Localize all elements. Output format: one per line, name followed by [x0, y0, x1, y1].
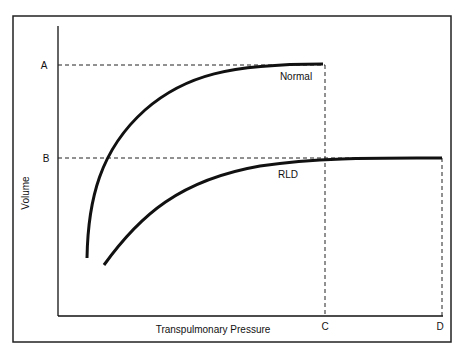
tick-a: A — [41, 60, 48, 71]
label-normal: Normal — [280, 71, 312, 82]
label-rld: RLD — [278, 169, 298, 180]
y-axis-label: Volume — [20, 176, 31, 210]
pressure-volume-diagram: A B C D Normal RLD Transpulmonary Pressu… — [0, 0, 459, 349]
tick-b: B — [43, 153, 50, 164]
tick-c: C — [321, 321, 328, 332]
normal-curve — [87, 64, 323, 258]
rld-curve — [104, 158, 442, 265]
x-axis-label: Transpulmonary Pressure — [156, 324, 271, 335]
tick-d: D — [436, 321, 443, 332]
outer-frame — [13, 16, 451, 342]
